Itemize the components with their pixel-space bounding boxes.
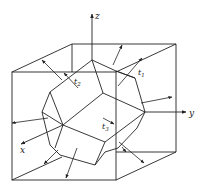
traction-arrow-left (12, 118, 48, 123)
t3-label: t3 (102, 122, 109, 132)
x-axis (21, 125, 63, 144)
cube-back-face (72, 44, 176, 152)
z-axis-label: z (94, 11, 100, 21)
grain-cube-diagram: z y x t1 t2 t3 (0, 0, 206, 190)
traction-arrow-bottom (66, 148, 77, 178)
traction-arrow-top (113, 45, 122, 65)
traction-arrow-top-left (42, 60, 62, 80)
traction-arrow-bottom-right (119, 142, 144, 163)
traction-arrow-right (141, 97, 172, 103)
cube-front-face (12, 72, 116, 180)
y-axis-label: y (188, 108, 195, 118)
x-axis-label: x (20, 145, 25, 155)
t1-label: t1 (138, 68, 145, 78)
t2-label: t2 (74, 77, 81, 87)
